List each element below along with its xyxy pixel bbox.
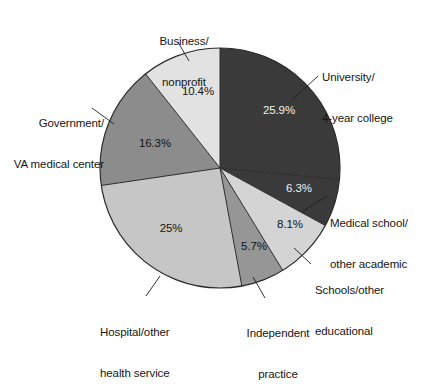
pie-percent-medical-school-other-academic: 6.3% — [286, 182, 312, 194]
pie-percent-government-va-medical-center: 16.3% — [139, 137, 171, 149]
slice-label-business-line1: Business/ — [132, 35, 236, 49]
slice-label-hospital: Hospital/other health service — [100, 299, 170, 384]
slice-label-business: Business/ nonprofit — [132, 8, 236, 116]
pie-percent-independent-practice: 5.7% — [241, 240, 267, 252]
slice-label-hospital-line2: health service — [100, 367, 170, 381]
slice-label-independent-line1: Independent — [231, 327, 325, 341]
slice-label-independent-line2: practice — [231, 368, 325, 382]
pie-percent-hospital-other-health-service: 25% — [160, 222, 183, 234]
slice-label-schools-other: Schools/other educational — [315, 257, 384, 365]
slice-label-university-line2: 4-year college — [322, 112, 393, 126]
slice-label-medical-school-line1: Medical school/ — [330, 217, 408, 231]
slice-label-university-line1: University/ — [322, 71, 393, 85]
slice-label-independent: Independent practice — [231, 300, 325, 384]
slice-label-government: Government/ VA medical center — [0, 90, 104, 198]
slice-label-university: University/ 4-year college — [322, 44, 393, 152]
pie-percent-schools-other-educational: 8.1% — [277, 218, 303, 230]
leader-line-hospital — [146, 276, 160, 296]
slice-label-business-line2: nonprofit — [132, 76, 236, 90]
slice-label-schools-other-line2: educational — [315, 325, 384, 339]
slice-label-government-line1: Government/ — [0, 117, 104, 131]
slice-label-hospital-line1: Hospital/other — [100, 326, 170, 340]
pie-percent-university-4-year-college: 25.9% — [263, 104, 295, 116]
slice-label-schools-other-line1: Schools/other — [315, 284, 384, 298]
slice-label-government-line2: VA medical center — [0, 158, 104, 172]
